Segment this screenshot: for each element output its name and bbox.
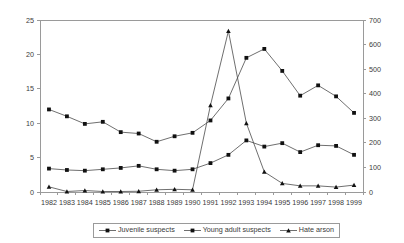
x-axis-tick-label: 1999 (346, 198, 362, 207)
x-axis-tick-label: 1994 (256, 198, 272, 207)
legend-item-label: Young adult suspects (203, 226, 271, 233)
x-axis-tick-label: 1993 (238, 198, 254, 207)
legend-square-marker-icon (99, 226, 116, 235)
y-axis-right-tick-label: 200 (369, 138, 381, 147)
y-axis-left-tick-label: 15 (26, 84, 34, 93)
y-axis-left-tick-label: 25 (26, 16, 34, 25)
x-axis-tick-label: 1987 (131, 198, 147, 207)
x-axis-tick-label: 1983 (59, 198, 75, 207)
legend-square-marker-icon (184, 226, 201, 235)
chart-legend: Juvenile suspectsYoung adult suspectsHat… (93, 223, 340, 238)
y-axis-right-tick-label: 700 (369, 16, 381, 25)
tick-labels-group: 0510152025010020030040050060070019821983… (26, 16, 381, 207)
y-axis-right-tick-label: 100 (369, 163, 381, 172)
y-axis-right-tick-label: 300 (369, 114, 381, 123)
line-chart: 0510152025010020030040050060070019821983… (0, 0, 404, 243)
series-young-adult-suspects (47, 47, 356, 144)
x-axis-tick-label: 1997 (310, 198, 326, 207)
x-axis-tick-label: 1986 (113, 198, 129, 207)
x-axis-tick-label: 1989 (167, 198, 183, 207)
legend-item: Young adult suspects (184, 226, 271, 235)
legend-triangle-marker-icon (280, 226, 297, 235)
y-axis-right-tick-label: 600 (369, 40, 381, 49)
series-juvenile-suspects (47, 139, 356, 173)
legend-item: Juvenile suspects (99, 226, 175, 235)
y-axis-left-tick-label: 10 (26, 119, 34, 128)
x-axis-tick-label: 1998 (328, 198, 344, 207)
series-group (47, 29, 357, 194)
x-axis-tick-label: 1984 (77, 198, 93, 207)
x-axis-tick-label: 1992 (220, 198, 236, 207)
x-axis-tick-label: 1988 (149, 198, 165, 207)
x-axis-tick-label: 1985 (95, 198, 111, 207)
x-axis-tick-label: 1991 (202, 198, 218, 207)
x-axis-tick-label: 1995 (274, 198, 290, 207)
x-axis-tick-label: 1982 (41, 198, 57, 207)
y-axis-left-tick-label: 20 (26, 50, 34, 59)
y-axis-right-tick-label: 0 (369, 188, 373, 197)
y-axis-right-tick-label: 500 (369, 65, 381, 74)
x-axis-tick-label: 1990 (185, 198, 201, 207)
chart-canvas: 0510152025010020030040050060070019821983… (0, 0, 404, 243)
legend-item: Hate arson (280, 226, 334, 235)
axes-group (37, 20, 366, 195)
y-axis-left-tick-label: 5 (30, 153, 34, 162)
x-axis-tick-label: 1996 (292, 198, 308, 207)
legend-item-label: Hate arson (299, 226, 334, 233)
legend-item-label: Juvenile suspects (118, 226, 175, 233)
y-axis-right-tick-label: 400 (369, 89, 381, 98)
series-hate-arson (47, 29, 357, 194)
y-axis-left-tick-label: 0 (30, 188, 34, 197)
